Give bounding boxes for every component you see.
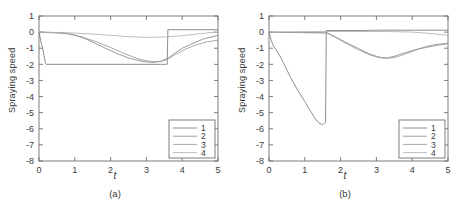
legend-label-4: 4: [431, 148, 436, 158]
y-tick-label: -1: [26, 43, 34, 53]
y-tick-label: -3: [26, 76, 34, 86]
series-line-3: [269, 32, 448, 58]
legend-label-4: 4: [201, 148, 206, 158]
y-tick-label: -4: [26, 92, 34, 102]
y-tick-label: -6: [256, 124, 264, 134]
panel-b-caption: (b): [230, 188, 460, 199]
y-tick-label: -1: [256, 43, 264, 53]
panel-a-caption: (a): [0, 188, 230, 199]
y-tick-label: -6: [26, 124, 34, 134]
figure-two-panel-line-charts: Spraying speed 01234510-1-2-3-4-5-6-7-81…: [0, 0, 461, 211]
panel-b-x-axis-label: t: [230, 170, 460, 181]
series-line-1: [269, 30, 448, 125]
series-line-4: [39, 32, 218, 38]
y-tick-label: 1: [29, 11, 34, 21]
panel-a: Spraying speed 01234510-1-2-3-4-5-6-7-81…: [0, 0, 230, 211]
y-tick-label: -3: [256, 76, 264, 86]
y-tick-label: -8: [26, 156, 34, 166]
y-tick-label: -2: [256, 60, 264, 70]
panel-b: Spraying speed 01234510-1-2-3-4-5-6-7-81…: [230, 0, 460, 211]
y-tick-label: -8: [256, 156, 264, 166]
panel-a-plot: 01234510-1-2-3-4-5-6-7-81234: [0, 0, 230, 175]
series-line-2: [269, 32, 448, 58]
y-tick-label: 0: [29, 27, 34, 37]
panel-a-x-axis-label: t: [0, 170, 230, 181]
panel-b-plot: 01234510-1-2-3-4-5-6-7-81234: [230, 0, 460, 175]
y-tick-label: -5: [26, 108, 34, 118]
series-line-4: [269, 31, 448, 35]
y-tick-label: -5: [256, 108, 264, 118]
y-tick-label: -4: [256, 92, 264, 102]
y-tick-label: 0: [259, 27, 264, 37]
y-tick-label: -7: [26, 140, 34, 150]
y-tick-label: 1: [259, 11, 264, 21]
y-tick-label: -7: [256, 140, 264, 150]
y-tick-label: -2: [26, 60, 34, 70]
